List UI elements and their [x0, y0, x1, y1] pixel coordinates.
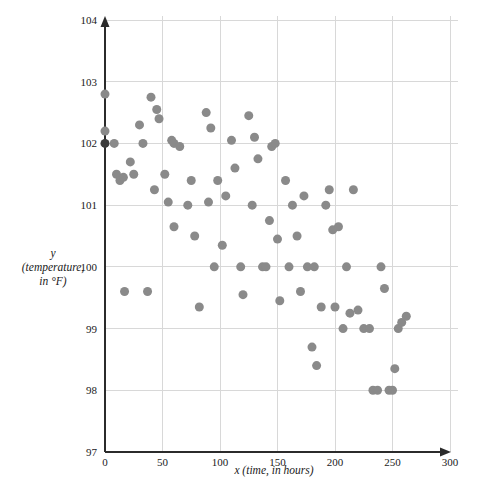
data-point	[354, 306, 363, 315]
data-point	[236, 262, 245, 271]
y-tick-labels: 979899100101102103104	[81, 14, 98, 458]
data-point	[129, 170, 138, 179]
data-point	[244, 111, 253, 120]
data-point	[262, 262, 271, 271]
data-point	[325, 185, 334, 194]
data-point	[204, 198, 213, 207]
data-point	[230, 164, 239, 173]
data-point	[365, 324, 374, 333]
data-point	[334, 222, 343, 231]
x-tick-label: 50	[157, 456, 169, 468]
data-point	[147, 93, 156, 102]
scatter-plot-figure: 050100150200250300 979899100101102103104…	[0, 0, 481, 492]
x-axis-title: x (time, in hours)	[233, 464, 313, 477]
data-point	[239, 290, 248, 299]
data-point	[345, 309, 354, 318]
data-point	[373, 386, 382, 395]
data-point	[187, 176, 196, 185]
data-point	[227, 136, 236, 145]
data-point	[321, 201, 330, 210]
data-point	[271, 139, 280, 148]
scatter-plot-svg: 050100150200250300 979899100101102103104…	[0, 0, 481, 492]
data-point	[175, 142, 184, 151]
y-axis-title-line-1: y	[49, 247, 56, 260]
data-point	[312, 361, 321, 370]
y-tick-label: 97	[86, 446, 98, 458]
x-tick-label: 100	[212, 456, 229, 468]
data-point	[150, 185, 159, 194]
data-point	[190, 232, 199, 241]
data-point	[138, 139, 147, 148]
data-point	[390, 364, 399, 373]
data-point	[195, 302, 204, 311]
x-tick-label: 250	[384, 456, 401, 468]
data-point	[101, 90, 110, 99]
data-point	[221, 191, 230, 200]
data-point	[342, 262, 351, 271]
y-axis-title-line-2: (temperature,	[22, 261, 85, 274]
data-point	[288, 201, 297, 210]
y-tick-label: 98	[86, 384, 98, 396]
data-point	[206, 124, 215, 133]
data-point	[275, 296, 284, 305]
data-point	[213, 176, 222, 185]
data-point	[202, 108, 211, 117]
data-point	[331, 302, 340, 311]
x-tick-label: 0	[102, 456, 108, 468]
data-point	[310, 262, 319, 271]
data-point	[119, 173, 128, 182]
data-point	[143, 287, 152, 296]
data-point	[110, 139, 119, 148]
data-point	[101, 127, 110, 136]
y-tick-label: 101	[81, 199, 98, 211]
data-point	[155, 114, 164, 123]
data-point	[273, 235, 282, 244]
y-tick-label: 99	[86, 323, 98, 335]
grid-lines	[105, 16, 458, 452]
data-point	[120, 287, 129, 296]
data-point	[380, 284, 389, 293]
y-tick-label: 104	[81, 14, 98, 26]
data-point	[126, 157, 135, 166]
data-point	[210, 262, 219, 271]
data-point	[317, 302, 326, 311]
data-point	[293, 232, 302, 241]
y-tick-label: 102	[81, 137, 98, 149]
data-point	[160, 170, 169, 179]
data-point	[308, 343, 317, 352]
data-point	[281, 176, 290, 185]
y-tick-label: 103	[81, 76, 98, 88]
data-point	[135, 120, 144, 129]
data-point-highlighted	[101, 139, 110, 148]
data-point	[388, 386, 397, 395]
data-point	[339, 324, 348, 333]
data-point	[250, 133, 259, 142]
data-point	[248, 201, 257, 210]
data-point	[183, 201, 192, 210]
x-tick-label: 300	[442, 456, 459, 468]
data-point	[296, 287, 305, 296]
data-point	[265, 216, 274, 225]
data-points-group	[101, 90, 411, 395]
data-point	[377, 262, 386, 271]
y-axis-title: y (temperature, in °F)	[22, 247, 85, 288]
data-point	[349, 185, 358, 194]
y-axis-title-line-3: in °F)	[39, 275, 66, 288]
data-point	[285, 262, 294, 271]
data-point	[253, 154, 262, 163]
y-axis-arrow	[101, 16, 110, 27]
data-point	[152, 105, 161, 114]
x-tick-label: 200	[327, 456, 344, 468]
data-point	[402, 312, 411, 321]
data-point	[218, 241, 227, 250]
data-point	[170, 222, 179, 231]
data-point	[299, 191, 308, 200]
data-point	[164, 198, 173, 207]
